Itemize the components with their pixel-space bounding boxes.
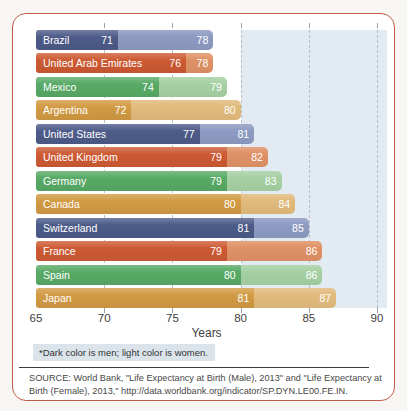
bar-women-segment: 87 [254, 288, 336, 308]
x-axis-title: Years [191, 326, 221, 340]
bar-women-segment: 79 [159, 77, 227, 97]
bar-men-segment: Germany79 [36, 171, 227, 191]
bar-row: United Kingdom7982 [36, 147, 268, 167]
bar-women-segment: 83 [227, 171, 282, 191]
bar-row: Spain8086 [36, 265, 322, 285]
source-text: SOURCE: World Bank, "Life Expectancy at … [29, 372, 385, 399]
axis-tick-label: 85 [302, 312, 315, 324]
men-value-label: 77 [183, 128, 195, 140]
country-label: Japan [43, 292, 72, 304]
top-tick [172, 23, 173, 28]
men-value-label: 80 [224, 198, 236, 210]
bar-women-segment: 86 [227, 241, 322, 261]
bar-row: Japan8187 [36, 288, 336, 308]
bar-row: Canada8084 [36, 194, 295, 214]
women-value-label: 81 [238, 128, 250, 140]
women-value-label: 84 [278, 198, 290, 210]
bar-women-segment: 84 [241, 194, 296, 214]
bar-men-segment: United Kingdom79 [36, 147, 227, 167]
women-value-label: 86 [306, 245, 318, 257]
bar-men-segment: United States77 [36, 124, 200, 144]
men-value-label: 79 [210, 245, 222, 257]
bar-row: France7986 [36, 241, 322, 261]
bar-row: Germany7983 [36, 171, 282, 191]
footnote: *Dark color is men; light color is women… [33, 344, 215, 361]
bar-row: United Arab Emirates7678 [36, 53, 213, 73]
men-value-label: 80 [224, 269, 236, 281]
country-label: Germany [43, 175, 86, 187]
axis-tick-label: 65 [30, 312, 43, 324]
bar-women-segment: 80 [131, 100, 240, 120]
bar-women-segment: 85 [254, 218, 309, 238]
bar-men-segment: Brazil71 [36, 30, 118, 50]
country-label: Argentina [43, 104, 88, 116]
bar-row: Mexico7479 [36, 77, 227, 97]
country-label: Spain [43, 269, 70, 281]
bar-women-segment: 86 [241, 265, 323, 285]
bar-men-segment: Argentina72 [36, 100, 131, 120]
women-value-label: 78 [197, 57, 209, 69]
men-value-label: 79 [210, 151, 222, 163]
bar-women-segment: 81 [200, 124, 255, 144]
women-value-label: 83 [265, 175, 277, 187]
country-label: United Arab Emirates [43, 57, 142, 69]
top-tick [309, 23, 310, 28]
men-value-label: 72 [115, 104, 127, 116]
country-label: United Kingdom [43, 151, 118, 163]
men-value-label: 81 [238, 292, 250, 304]
country-label: France [43, 245, 76, 257]
axis-tick-label: 75 [166, 312, 179, 324]
women-value-label: 85 [292, 222, 304, 234]
country-label: Mexico [43, 81, 76, 93]
top-tick [377, 23, 378, 28]
bar-row: Brazil7178 [36, 30, 213, 50]
men-value-label: 76 [169, 57, 181, 69]
bar-women-segment: 78 [118, 30, 213, 50]
bar-row: United States7781 [36, 124, 254, 144]
bar-row: Argentina7280 [36, 100, 241, 120]
top-tick [241, 23, 242, 28]
chart-card: Brazil7178United Arab Emirates7678Mexico… [12, 13, 395, 401]
axis-tick-label: 80 [234, 312, 247, 324]
women-value-label: 87 [319, 292, 331, 304]
plot-area: Brazil7178United Arab Emirates7678Mexico… [36, 30, 387, 308]
men-value-label: 71 [101, 34, 113, 46]
men-value-label: 81 [238, 222, 250, 234]
bar-men-segment: France79 [36, 241, 227, 261]
women-value-label: 79 [210, 81, 222, 93]
top-tick [104, 23, 105, 28]
women-value-label: 80 [224, 104, 236, 116]
country-label: United States [43, 128, 106, 140]
bar-men-segment: Japan81 [36, 288, 254, 308]
country-label: Brazil [43, 34, 69, 46]
divider-line [19, 367, 369, 369]
page: { "chart_data": { "type": "bar", "orient… [0, 0, 407, 411]
bar-men-segment: Spain80 [36, 265, 241, 285]
bar-men-segment: Switzerland81 [36, 218, 254, 238]
men-value-label: 74 [142, 81, 154, 93]
axis-tick-label: 90 [371, 312, 384, 324]
bar-row: Switzerland8185 [36, 218, 309, 238]
women-value-label: 82 [251, 151, 263, 163]
gridline [377, 30, 378, 308]
axis-tick-label: 70 [98, 312, 111, 324]
bar-men-segment: Canada80 [36, 194, 241, 214]
bar-men-segment: Mexico74 [36, 77, 159, 97]
men-value-label: 79 [210, 175, 222, 187]
women-value-label: 86 [306, 269, 318, 281]
bar-women-segment: 78 [186, 53, 213, 73]
women-value-label: 78 [197, 34, 209, 46]
country-label: Canada [43, 198, 80, 210]
bar-women-segment: 82 [227, 147, 268, 167]
country-label: Switzerland [43, 222, 97, 234]
bar-men-segment: United Arab Emirates76 [36, 53, 186, 73]
